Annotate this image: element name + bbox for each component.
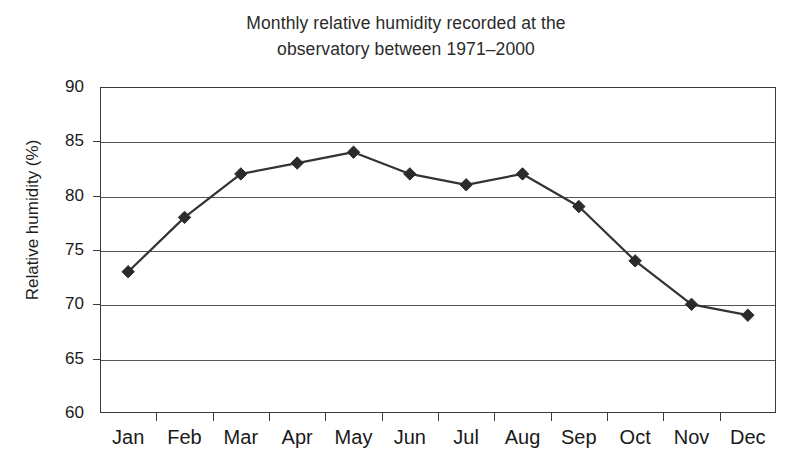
series-marker-group — [122, 146, 754, 321]
y-axis-tick-label-70: 70 — [32, 295, 84, 312]
y-axis-tick-label-80: 80 — [32, 187, 84, 204]
x-axis-tick-mark-9 — [607, 413, 608, 421]
x-axis-tick-mark-3 — [269, 413, 270, 421]
y-axis-tick-label-85: 85 — [32, 132, 84, 149]
data-series-layer — [100, 87, 776, 413]
data-point-dec-69 — [742, 309, 754, 321]
x-axis-tick-mark-10 — [663, 413, 664, 421]
y-axis-tick-label-60: 60 — [32, 404, 84, 421]
x-axis-tick-mark-11 — [720, 413, 721, 421]
x-axis-tick-mark-8 — [551, 413, 552, 421]
x-axis-tick-mark-2 — [213, 413, 214, 421]
x-axis-tick-mark-5 — [382, 413, 383, 421]
chart-container: Monthly relative humidity recorded at th… — [0, 0, 812, 472]
x-axis-tick-label-dec: Dec — [708, 424, 788, 450]
chart-title-line-2: observatory between 1971–2000 — [0, 36, 812, 62]
y-axis-title: Relative humidity (%) — [18, 50, 48, 390]
x-axis-tick-mark-4 — [325, 413, 326, 421]
x-axis-tick-mark-6 — [438, 413, 439, 421]
chart-title-line-1: Monthly relative humidity recorded at th… — [246, 13, 565, 33]
y-axis-tick-label-90: 90 — [32, 78, 84, 95]
data-point-apr-83 — [291, 157, 303, 169]
chart-title: Monthly relative humidity recorded at th… — [0, 10, 812, 62]
y-axis-tick-label-65: 65 — [32, 350, 84, 367]
data-point-jul-81 — [460, 179, 472, 191]
data-point-jun-82 — [404, 168, 416, 180]
x-axis-tick-mark-1 — [156, 413, 157, 421]
y-axis-tick-label-75: 75 — [32, 241, 84, 258]
data-point-aug-82 — [516, 168, 528, 180]
series-line-relative-humidity — [128, 152, 748, 315]
data-point-may-84 — [347, 146, 359, 158]
x-axis-tick-mark-7 — [494, 413, 495, 421]
